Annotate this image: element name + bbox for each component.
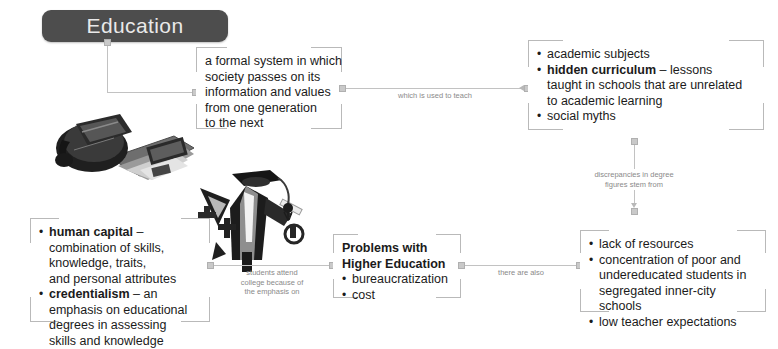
map-title-chip: Education (42, 10, 228, 42)
curriculum-box: academic subjects hidden curriculum – le… (528, 40, 764, 130)
backpack-illustration (48, 96, 194, 184)
list-item: combination of skills, (39, 241, 201, 257)
list-item: undereducated students in (589, 268, 757, 284)
connector-line-title-to-definition (107, 92, 195, 93)
list-item: concentration of poor and (589, 253, 757, 269)
connector-node-title-bottom (104, 39, 111, 46)
definition-line: a formal system in which (205, 54, 333, 70)
inequality-box: lack of resources concentration of poor … (580, 230, 766, 312)
list-item: academic subjects (537, 47, 755, 63)
list-item: segregated inner-city schools (589, 284, 757, 315)
connector-label-discrepancies: discrepancies in degree figures stem fro… (569, 170, 699, 189)
connector-node-inequality-top (631, 208, 638, 215)
problems-list: bureaucratization cost (342, 272, 452, 303)
list-item: and personal attributes (39, 272, 201, 288)
list-item: knowledge, traits, (39, 256, 201, 272)
list-item: human capital – (39, 225, 201, 241)
graduation-illustration (196, 168, 306, 273)
list-item: skills and knowledge (39, 334, 201, 349)
definition-line: society passes on its (205, 70, 333, 86)
curriculum-content: academic subjects hidden curriculum – le… (528, 40, 764, 130)
list-item: degrees in assessing (39, 318, 201, 334)
definition-line: information and values (205, 85, 333, 101)
connector-node-curriculum-bottom (631, 138, 638, 145)
list-item: to academic learning (537, 94, 755, 110)
problems-heading-line: Higher Education (342, 257, 452, 273)
connector-line-definition-to-curriculum (346, 88, 523, 89)
list-item: lack of resources (589, 237, 757, 253)
list-item: bureaucratization (342, 272, 452, 288)
list-item: social myths (537, 109, 755, 125)
connector-line-curriculum-down-a (634, 145, 635, 169)
connector-node-capital-right (207, 262, 214, 269)
connector-line-problems-to-inequality (465, 265, 576, 266)
connector-label-there-are-also: there are also (471, 268, 571, 278)
connector-line-title-down (107, 46, 108, 92)
list-item: cost (342, 288, 452, 304)
definition-line: from one generation (205, 101, 333, 117)
connector-line-capital-to-problems (214, 265, 329, 266)
definition-text: a formal system in which society passes … (196, 47, 342, 129)
human-capital-list: human capital – combination of skills, k… (39, 225, 201, 349)
curriculum-list: academic subjects hidden curriculum – le… (537, 47, 755, 125)
graduation-cap-and-gown-photo (196, 168, 306, 273)
problems-heading-line: Problems with (342, 241, 452, 257)
inequality-content: lack of resources concentration of poor … (580, 230, 766, 312)
list-item: low teacher expectations (589, 315, 757, 331)
connector-label-students-attend: students attend college because of the e… (222, 268, 322, 297)
list-item: emphasis on educational (39, 303, 201, 319)
list-item: taught in schools that are unrelated (537, 78, 755, 94)
backpack-with-books-photo (48, 96, 194, 184)
connector-node-problems-right (458, 262, 465, 269)
definition-box: a formal system in which society passes … (196, 47, 342, 129)
problems-content: Problems with Higher Education bureaucra… (333, 234, 461, 298)
problems-box: Problems with Higher Education bureaucra… (333, 234, 461, 298)
page-title: Education (86, 14, 183, 38)
definition-line: to the next (205, 116, 333, 132)
list-item: hidden curriculum – lessons (537, 63, 755, 79)
list-item: credentialism – an (39, 287, 201, 303)
human-capital-box: human capital – combination of skills, k… (30, 218, 210, 322)
inequality-list: lack of resources concentration of poor … (589, 237, 757, 330)
connector-node-definition-right (339, 85, 346, 92)
connector-label-which-is-used-to-teach: which is used to teach (360, 91, 510, 101)
human-capital-content: human capital – combination of skills, k… (30, 218, 210, 322)
